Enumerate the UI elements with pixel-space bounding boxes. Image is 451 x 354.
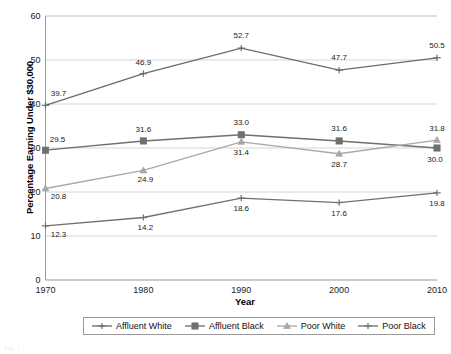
data-point-marker	[140, 214, 147, 220]
legend-item-affluent-white[interactable]: Affluent White	[92, 321, 172, 331]
legend-label: Poor Black	[382, 321, 426, 331]
x-axis-title: Year	[45, 296, 445, 307]
data-label: 31.6	[331, 124, 347, 133]
legend-swatch-cross-icon	[358, 321, 378, 331]
data-label: 28.7	[331, 160, 347, 169]
legend-swatch-cross-icon	[92, 321, 112, 331]
y-tick-label: 60	[30, 11, 40, 21]
data-point-marker	[335, 67, 342, 73]
data-point-marker	[335, 199, 342, 205]
data-label: 31.6	[136, 125, 152, 134]
data-label: 46.9	[136, 58, 152, 67]
data-point-marker	[42, 223, 49, 229]
chart-legend: Affluent WhiteAffluent BlackPoor WhitePo…	[83, 317, 435, 335]
data-label: 12.3	[51, 230, 67, 239]
legend-label: Poor White	[301, 321, 346, 331]
data-point-marker	[238, 132, 244, 138]
data-label: 18.6	[233, 204, 249, 213]
data-label: 19.8	[429, 199, 445, 208]
data-label: 29.5	[50, 135, 66, 144]
data-point-marker	[433, 190, 440, 196]
legend-swatch-square-icon	[185, 321, 205, 331]
x-tick-label: 1970	[35, 285, 55, 295]
data-point-marker	[42, 147, 48, 153]
data-label: 20.8	[51, 192, 67, 201]
data-label: 39.7	[51, 89, 67, 98]
data-point-marker	[238, 195, 245, 201]
x-tick-label: 1980	[133, 285, 153, 295]
x-tick-labels: 19701980199020002010	[35, 285, 447, 295]
legend-swatch-triangle-icon	[277, 321, 297, 331]
data-label: 14.2	[138, 223, 154, 232]
data-label: 50.5	[429, 41, 445, 50]
series-poor-black: 12.314.218.617.619.8	[42, 190, 446, 239]
data-point-marker	[140, 138, 146, 144]
data-point-marker	[434, 145, 440, 151]
data-label: 33.0	[233, 118, 249, 127]
series-line	[46, 48, 438, 105]
series-affluent-white: 39.746.952.747.750.5	[42, 31, 446, 108]
data-point-marker	[140, 71, 147, 77]
data-point-marker	[192, 323, 198, 329]
legend-item-affluent-black[interactable]: Affluent Black	[185, 321, 264, 331]
x-tick-label: 2000	[329, 285, 349, 295]
data-point-marker	[434, 137, 441, 143]
figure-caption: Fig. 1	[4, 344, 20, 352]
legend-item-poor-black[interactable]: Poor Black	[358, 321, 426, 331]
legend-label: Affluent White	[116, 321, 172, 331]
legend-item-poor-white[interactable]: Poor White	[277, 321, 346, 331]
data-point-marker	[238, 45, 245, 51]
data-point-marker	[42, 102, 49, 108]
data-point-marker	[336, 138, 342, 144]
data-label: 52.7	[233, 31, 249, 40]
y-tick-label: 0	[35, 275, 40, 285]
data-point-marker	[238, 138, 245, 144]
data-label: 30.0	[427, 155, 443, 164]
data-label: 17.6	[331, 209, 347, 218]
data-label: 24.9	[138, 175, 154, 184]
data-point-marker	[98, 323, 105, 329]
x-tick-label: 2010	[427, 285, 447, 295]
x-tick-label: 1990	[231, 285, 251, 295]
data-label: 47.7	[331, 53, 347, 62]
data-point-marker	[365, 323, 372, 329]
legend-label: Affluent Black	[209, 321, 264, 331]
figure-container: 01020304050601970198019902000201039.746.…	[0, 0, 451, 354]
data-label: 31.4	[233, 148, 249, 157]
y-axis-title: Percentage Earning Under $30,000	[24, 33, 35, 243]
data-label: 31.8	[429, 124, 445, 133]
